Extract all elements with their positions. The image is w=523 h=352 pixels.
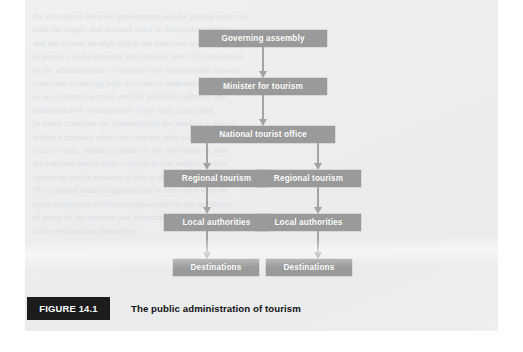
node-minister-for-tourism[interactable]: Minister for tourism (199, 78, 327, 95)
node-regional-tourism-right[interactable]: Regional tourism (256, 170, 361, 187)
node-label: National tourist office (219, 130, 307, 139)
flow-chart: Governing assembly Minister for tourism … (25, 0, 498, 290)
arrow-national-office-to-regional-right (309, 143, 327, 170)
figure-caption-title: The public administration of tourism (131, 297, 301, 320)
scanned-page: the interaction between government and t… (25, 0, 498, 331)
node-label: Regional tourism (182, 174, 251, 183)
node-governing-assembly[interactable]: Governing assembly (199, 30, 327, 47)
figure-caption: FIGURE 14.1 The public administration of… (25, 297, 498, 321)
node-label: Regional tourism (274, 174, 343, 183)
node-destinations-right[interactable]: Destinations (266, 259, 352, 276)
arrow-regional-left-to-local-left (198, 187, 216, 214)
arrow-minister-to-national-office (254, 95, 272, 126)
node-local-authorities-right[interactable]: Local authorities (256, 214, 361, 231)
node-national-tourist-office[interactable]: National tourist office (191, 126, 335, 143)
node-label: Minister for tourism (223, 82, 303, 91)
node-label: Local authorities (274, 218, 342, 227)
arrow-regional-right-to-local-right (309, 187, 327, 214)
figure-number-badge: FIGURE 14.1 (27, 297, 110, 320)
node-label: Local authorities (182, 218, 250, 227)
node-destinations-left[interactable]: Destinations (173, 259, 259, 276)
node-regional-tourism-left[interactable]: Regional tourism (164, 170, 269, 187)
figure-number-label: FIGURE 14.1 (39, 303, 97, 314)
arrow-national-office-to-regional-left (198, 143, 216, 170)
node-label: Governing assembly (221, 34, 304, 43)
node-label: Destinations (284, 263, 335, 272)
node-label: Destinations (191, 263, 242, 272)
arrow-local-left-to-destinations-left (198, 231, 216, 259)
arrow-local-right-to-destinations-right (309, 231, 327, 259)
arrow-governing-assembly-to-minister (254, 47, 272, 78)
node-local-authorities-left[interactable]: Local authorities (164, 214, 269, 231)
